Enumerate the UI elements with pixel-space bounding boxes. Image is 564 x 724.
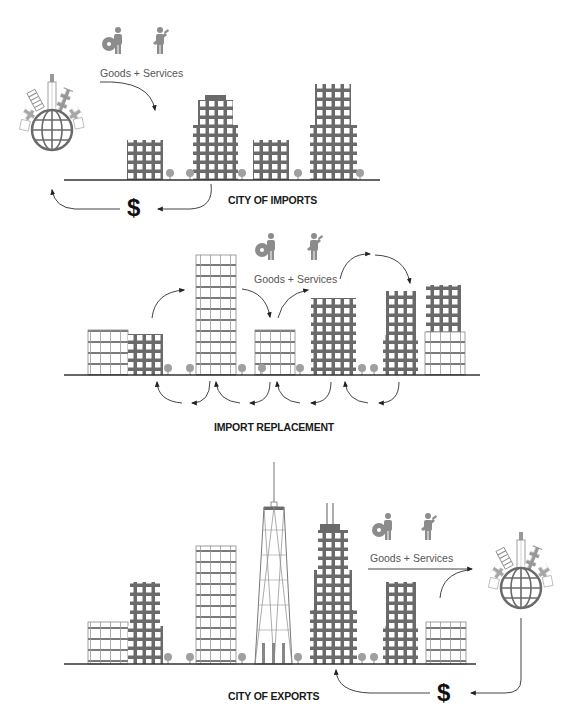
money-arrow-in <box>471 618 521 693</box>
panel-title: CITY OF EXPORTS <box>228 690 319 702</box>
globe-skyline-icon <box>488 532 553 608</box>
money-arrow-out <box>336 670 430 693</box>
worker-tools-icon <box>421 513 437 540</box>
exports-illustration <box>0 0 564 724</box>
gear-person-icon <box>372 513 392 540</box>
goods-services-label: Goods + Services <box>370 552 453 564</box>
spire-tower <box>255 462 292 664</box>
dollar-sign: $ <box>437 681 450 705</box>
